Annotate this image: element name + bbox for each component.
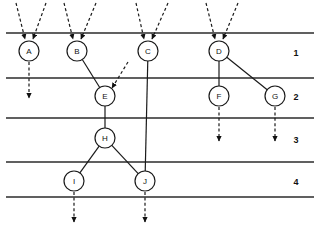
node-label-D: D (216, 47, 222, 56)
node-E[interactable]: E (95, 86, 115, 106)
node-H[interactable]: H (95, 128, 115, 148)
nodes-group: ABCDEFGHIJ (19, 41, 285, 191)
node-label-I: I (73, 177, 75, 186)
diagram-svg: ABCDEFGHIJ 1234 (0, 0, 316, 227)
node-A[interactable]: A (19, 41, 39, 61)
level-lines-group (6, 33, 314, 197)
node-B[interactable]: B (67, 41, 87, 61)
node-J[interactable]: J (135, 171, 155, 191)
node-label-G: G (272, 92, 278, 101)
node-C[interactable]: C (138, 41, 158, 61)
diagram-canvas: ABCDEFGHIJ 1234 (0, 0, 316, 227)
edge-D-G (227, 57, 267, 89)
level-number-1: 1 (293, 48, 298, 58)
level-number-3: 3 (293, 135, 298, 145)
level-number-4: 4 (293, 177, 298, 187)
node-label-B: B (74, 47, 79, 56)
node-F[interactable]: F (209, 86, 229, 106)
node-label-H: H (102, 134, 108, 143)
node-G[interactable]: G (265, 86, 285, 106)
edge-B-E (82, 59, 99, 87)
node-label-J: J (143, 177, 147, 186)
node-label-E: E (102, 92, 107, 101)
level-number-2: 2 (293, 92, 298, 102)
node-label-F: F (217, 92, 222, 101)
node-label-A: A (26, 47, 32, 56)
node-D[interactable]: D (209, 41, 229, 61)
edge-H-I (80, 146, 99, 173)
node-I[interactable]: I (64, 171, 84, 191)
edge-H-J (112, 145, 138, 173)
edges-group (80, 57, 267, 173)
node-label-C: C (145, 47, 151, 56)
input-E-right (112, 62, 128, 88)
